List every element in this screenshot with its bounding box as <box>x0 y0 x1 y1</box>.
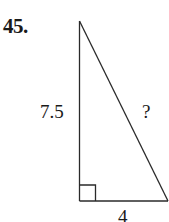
hypotenuse-label: ? <box>142 102 150 121</box>
hypotenuse <box>80 21 169 201</box>
horizontal-leg-label: 4 <box>118 207 128 222</box>
vertical-leg-label: 7.5 <box>40 102 64 121</box>
right-angle-marker <box>80 185 96 201</box>
